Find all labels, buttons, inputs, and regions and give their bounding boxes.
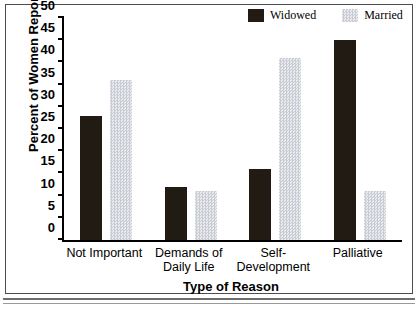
y-axis-tick-label: 15: [41, 154, 55, 167]
bar-married[interactable]: [195, 191, 217, 240]
figure-border-left: [5, 4, 6, 294]
y-axis-tick-label: 5: [48, 198, 55, 211]
y-axis-tick-label: 50: [41, 0, 55, 12]
y-axis-title: Percent of Women Reporting: [26, 0, 41, 160]
y-axis-tick-label: 20: [41, 132, 55, 145]
page-rule-secondary: [3, 303, 415, 304]
x-axis-category-label: Self-Development: [231, 246, 316, 274]
page-rule-primary: [3, 298, 415, 300]
bar-married[interactable]: [364, 191, 386, 240]
bar-widowed[interactable]: [80, 116, 102, 240]
x-axis-title: Type of Reason: [62, 279, 400, 294]
bar-group: [318, 18, 403, 240]
x-axis-category-label: Demands of Daily Life: [147, 246, 232, 274]
y-axis-tick-label: 45: [41, 21, 55, 34]
y-axis-tick-label: 30: [41, 87, 55, 100]
bar-group: [233, 18, 318, 240]
bar-widowed[interactable]: [249, 169, 271, 240]
y-axis-tick-label: 40: [41, 43, 55, 56]
bar-group: [149, 18, 234, 240]
x-axis-category-label: Palliative: [316, 246, 401, 274]
bar-married[interactable]: [110, 80, 132, 240]
bar-widowed[interactable]: [165, 187, 187, 240]
figure: WidowedMarried 05101520253035404550 Not …: [0, 0, 417, 318]
y-axis-tick-label: 0: [48, 221, 55, 234]
y-axis-tick-label: 25: [41, 110, 55, 123]
bar-married[interactable]: [279, 58, 301, 240]
x-axis-tick-labels: Not ImportantDemands of Daily LifeSelf-D…: [62, 246, 400, 274]
figure-border-right: [412, 4, 413, 294]
bar-series-container: [64, 18, 402, 240]
figure-border-top: [5, 4, 413, 5]
y-axis-tick-label: 10: [41, 176, 55, 189]
y-axis-tick-label: 35: [41, 65, 55, 78]
plot-area: 05101520253035404550: [62, 18, 402, 242]
bar-widowed[interactable]: [334, 40, 356, 240]
bar-group: [64, 18, 149, 240]
x-axis-category-label: Not Important: [62, 246, 147, 274]
